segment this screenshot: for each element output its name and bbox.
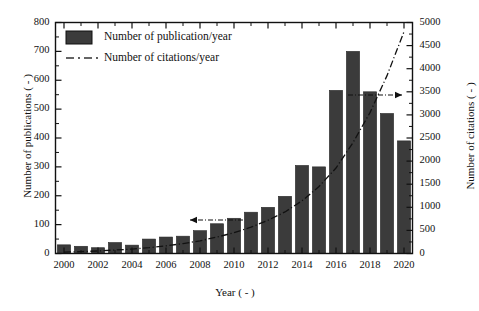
bar-2015: [312, 167, 325, 254]
bar-2013: [278, 196, 291, 253]
y-tick-left-0: 0: [16, 247, 50, 258]
y-tick-right-4000: 4000: [420, 62, 460, 73]
bar-2011: [244, 212, 257, 253]
y-tick-right-2500: 2500: [420, 131, 460, 142]
y-tick-right-500: 500: [420, 223, 460, 234]
bar-series: [57, 51, 410, 253]
y-tick-left-100: 100: [16, 218, 50, 229]
legend-markers: [66, 31, 98, 59]
y-tick-right-1500: 1500: [420, 177, 460, 188]
legend-swatch-publications: [66, 31, 92, 44]
y-tick-left-600: 600: [16, 73, 50, 84]
y-tick-right-3500: 3500: [420, 85, 460, 96]
bar-2019: [380, 113, 393, 253]
y-tick-left-200: 200: [16, 189, 50, 200]
legend-label-publications: Number of publication/year: [104, 30, 232, 42]
y-tick-right-0: 0: [420, 247, 460, 258]
legend-swatch-citations: [66, 57, 98, 59]
legend-label-citations: Number of citations/year: [104, 51, 219, 63]
y-tick-left-800: 800: [16, 16, 50, 27]
bar-2012: [261, 207, 274, 253]
y-tick-right-2000: 2000: [420, 154, 460, 165]
y-tick-right-5000: 5000: [420, 16, 460, 27]
x-axis-title: Year ( - ): [150, 286, 320, 298]
y-axis-right-title: Number of citations ( - ): [464, 56, 476, 216]
x-tick-2020: 2020: [384, 259, 424, 270]
y-tick-right-3000: 3000: [420, 108, 460, 119]
bar-2017: [346, 51, 359, 253]
y-tick-right-4500: 4500: [420, 39, 460, 50]
y-tick-left-300: 300: [16, 160, 50, 171]
bar-2016: [329, 90, 342, 253]
bar-2018: [363, 92, 376, 254]
bar-2020: [397, 141, 410, 254]
y-tick-left-400: 400: [16, 131, 50, 142]
y-tick-left-500: 500: [16, 102, 50, 113]
y-tick-left-700: 700: [16, 44, 50, 55]
bar-2014: [295, 165, 308, 253]
figure-container: Number of publication/year Number of cit…: [0, 0, 479, 311]
y-tick-right-1000: 1000: [420, 200, 460, 211]
